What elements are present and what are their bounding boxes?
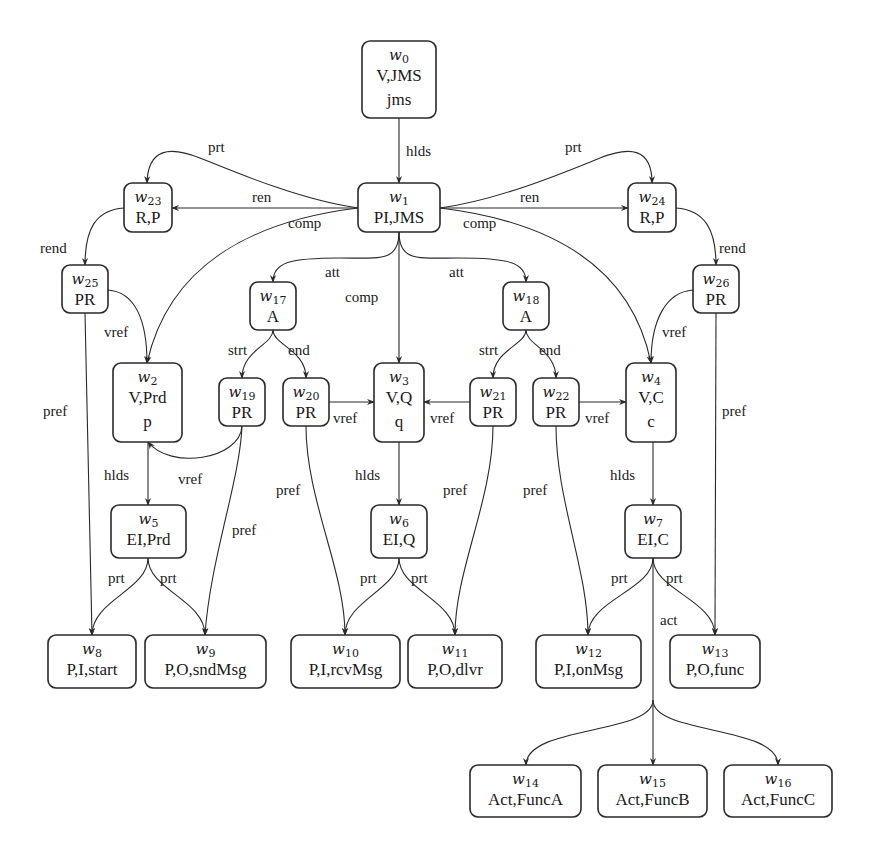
node-label-line: P,O,dlvr [427, 660, 483, 679]
node-label-line: Act,FuncC [741, 790, 815, 809]
edge-w25-w8 [85, 313, 92, 635]
node-w24: w24R,P [628, 183, 676, 232]
node-label-line: PR [546, 403, 567, 422]
edge-label-prt: prt [108, 570, 125, 586]
node-w2: w2V,Prdp [113, 363, 182, 442]
edge-label-prt: prt [208, 139, 225, 155]
node-label-line: P,I,rcvMsg [309, 660, 383, 679]
edge-label-end: end [288, 342, 310, 358]
knowledge-graph-diagram: hldsrenrenprtprtcompcompcompattattrendre… [0, 0, 876, 857]
node-w15: w15Act,FuncB [598, 765, 707, 817]
node-label-line: PR [706, 290, 727, 309]
node-w5: w5EI,Prd [111, 505, 186, 558]
node-label-line: c [647, 412, 655, 431]
node-w3: w3V,Qq [374, 363, 424, 442]
edge-label-hlds: hlds [104, 467, 129, 483]
node-label-line: q [395, 412, 404, 431]
edge-label-att: att [449, 264, 465, 280]
node-w23: w23R,P [124, 183, 172, 232]
edge-label-pref: pref [43, 403, 67, 419]
edge-label-prt: prt [565, 139, 582, 155]
node-w0: w0V,JMSjms [362, 41, 436, 118]
edge-w24-w26 [676, 208, 716, 265]
edge-label-att: att [325, 264, 341, 280]
edge-label-hlds: hlds [610, 467, 635, 483]
edge-label-ren: ren [252, 189, 272, 205]
node-w13: w13P,O,func [670, 635, 760, 688]
edge-label-ren: ren [520, 189, 540, 205]
edge-label-prt: prt [666, 570, 683, 586]
edge-label-comp: comp [463, 215, 496, 231]
node-w10: w10P,I,rcvMsg [291, 635, 400, 688]
edge-label-hlds: hlds [406, 143, 431, 159]
edge-label-pref: pref [523, 482, 547, 498]
edge-label-vref: vref [585, 410, 609, 426]
node-w26: w26PR [693, 265, 739, 313]
edge-label-end: end [539, 342, 561, 358]
edge-label-prt: prt [360, 570, 377, 586]
edge-w26-w13 [715, 313, 716, 635]
node-label-line: V,C [638, 388, 664, 407]
node-w16: w16Act,FuncC [724, 765, 832, 817]
edge-label-pref: pref [722, 403, 746, 419]
node-label-line: EI,Prd [127, 530, 171, 549]
node-w1: w1PI,JMS [358, 183, 440, 232]
node-label-line: jms [386, 90, 412, 109]
node-w4: w4V,Cc [626, 363, 676, 442]
node-w11: w11P,O,dlvr [408, 635, 502, 688]
edge-label-vref: vref [333, 410, 357, 426]
node-label-line: P,O,sndMsg [164, 660, 247, 679]
nodes-layer: w0V,JMSjmsw1PI,JMSw2V,Prdpw3V,Qqw4V,Ccw5… [48, 41, 832, 817]
node-w18: w18A [503, 282, 549, 330]
node-label-line: Act,FuncA [488, 790, 564, 809]
node-w20: w20PR [283, 378, 329, 426]
edge-label-rend: rend [40, 240, 67, 256]
node-label-line: PI,JMS [374, 208, 425, 227]
node-label-line: p [143, 412, 152, 431]
node-label-line: PR [483, 403, 504, 422]
edge-label-strt: strt [479, 342, 499, 358]
edge-w23-w25 [85, 208, 124, 265]
edge-label-pref: pref [443, 482, 467, 498]
node-label-line: R,P [135, 208, 160, 227]
edge-label-vref: vref [178, 471, 202, 487]
node-w8: w8P,I,start [48, 635, 136, 688]
node-w12: w12P,I,onMsg [536, 635, 641, 688]
edge-label-rend: rend [719, 240, 746, 256]
edge-w22-w12 [556, 426, 588, 635]
node-label-line: Act,FuncB [615, 790, 689, 809]
edge-label-act: act [660, 612, 678, 628]
node-label-line: R,P [639, 208, 664, 227]
node-label-line: V,Q [386, 388, 413, 407]
edge-label-hlds: hlds [355, 467, 380, 483]
edge-label-vref: vref [430, 410, 454, 426]
node-label-line: P,O,func [686, 660, 745, 679]
edge-label-prt: prt [611, 570, 628, 586]
node-label-line: P,I,onMsg [554, 660, 623, 679]
edge-w7-w14 [526, 700, 653, 765]
node-w22: w22PR [533, 378, 579, 426]
node-w7: w7EI,C [625, 505, 681, 558]
node-label-line: PR [296, 403, 317, 422]
edge-w21-w11 [455, 426, 493, 635]
edge-label-strt: strt [228, 342, 248, 358]
node-w25: w25PR [62, 265, 108, 313]
node-label-line: EI,Q [383, 530, 416, 549]
node-label-line: PR [232, 403, 253, 422]
edge-w20-w10 [306, 426, 345, 635]
edge-label-pref: pref [276, 482, 300, 498]
node-label-line: PR [75, 290, 96, 309]
node-label-line: V,JMS [376, 66, 422, 85]
edge-label-vref: vref [662, 324, 686, 340]
node-w21: w21PR [470, 378, 516, 426]
node-label-line: P,I,start [67, 660, 118, 679]
node-w9: w9P,O,sndMsg [145, 635, 266, 688]
edge-label-comp: comp [288, 215, 321, 231]
node-w6: w6EI,Q [371, 505, 427, 558]
edge-label-prt: prt [160, 570, 177, 586]
node-label-line: EI,C [637, 530, 669, 549]
node-label-line: A [520, 307, 533, 326]
edge-w1-w24 [440, 151, 652, 208]
edge-label-comp: comp [345, 289, 378, 305]
node-label-line: V,Prd [129, 388, 167, 407]
